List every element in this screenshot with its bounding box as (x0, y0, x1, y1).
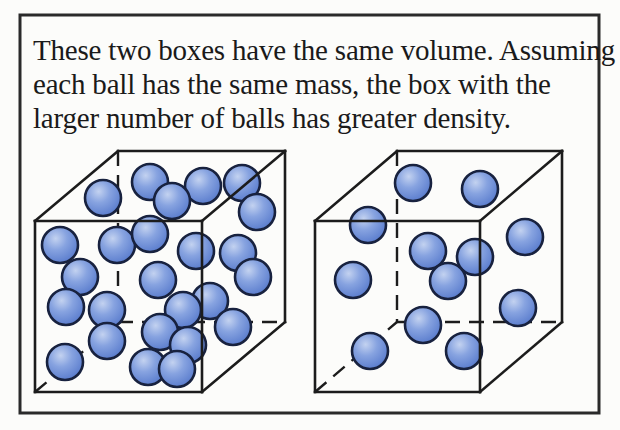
ball (47, 344, 83, 380)
cube-edge (480, 322, 562, 392)
ball (99, 227, 135, 263)
ball (405, 307, 441, 343)
caption-line-3: larger number of balls has greater densi… (33, 101, 615, 135)
ball (350, 207, 386, 243)
caption: These two boxes have the same volume. As… (33, 33, 615, 135)
ball (446, 333, 482, 369)
ball (178, 233, 214, 269)
ball (352, 333, 388, 369)
ball (140, 262, 176, 298)
ball (335, 262, 371, 298)
ball (154, 183, 190, 219)
ball (215, 309, 251, 345)
ball (430, 263, 466, 299)
right-box-fewer-balls (315, 151, 562, 392)
ball (85, 180, 121, 216)
left-box-more-balls (35, 151, 285, 392)
caption-line-1: These two boxes have the same volume. As… (33, 33, 615, 67)
boxes-layer (35, 151, 562, 392)
ball (159, 351, 195, 387)
ball (42, 227, 78, 263)
ball (507, 219, 543, 255)
ball (89, 323, 125, 359)
caption-line-2: each ball has the same mass, the box wit… (33, 67, 615, 101)
ball (239, 194, 275, 230)
ball (462, 171, 498, 207)
ball (48, 289, 84, 325)
ball (235, 259, 271, 295)
ball (395, 165, 431, 201)
ball (500, 290, 536, 326)
